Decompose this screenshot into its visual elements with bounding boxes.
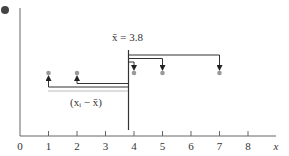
data-point [46,71,51,76]
positive-deviation-arrows [129,55,220,68]
deviation-diagram: 0 1 2 3 4 5 6 7 8 x x̄ = 3.8 (xᵢ − x̄) [0,0,289,156]
tick-label: 5 [160,140,166,152]
deviation-label: (xᵢ − x̄) [70,96,102,109]
data-points [46,71,222,76]
bullet-icon [1,6,9,14]
tick-label: 8 [245,140,251,152]
tick-label: 4 [131,140,137,152]
data-point [160,71,165,76]
tick-label: 6 [188,140,194,152]
tick-label: 7 [217,140,223,152]
mean-label: x̄ = 3.8 [112,31,143,43]
x-axis-label: x [273,140,279,152]
x-axis-ticks [49,131,249,136]
negative-deviation-arrows [49,78,129,87]
data-point [75,71,80,76]
tick-label: 3 [103,140,109,152]
tick-label: 2 [74,140,80,152]
data-point [217,71,222,76]
tick-label: 0 [17,140,23,152]
tick-label: 1 [46,140,52,152]
x-axis-tick-labels: 0 1 2 3 4 5 6 7 8 x [17,140,278,152]
data-point [132,71,137,76]
